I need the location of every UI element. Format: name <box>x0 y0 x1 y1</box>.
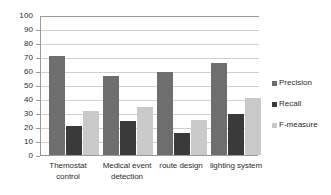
bar-precision <box>157 72 173 155</box>
bar-group <box>103 15 153 155</box>
legend-label: Recall <box>279 99 301 109</box>
legend-item: F-measure <box>272 122 330 143</box>
legend-swatch-fmeasure <box>272 123 277 128</box>
y-axis: 100 90 80 70 60 50 40 30 20 10 0 <box>0 0 40 160</box>
legend: Precision Recall F-measure <box>272 80 330 143</box>
y-tick-label: 0 <box>3 152 33 160</box>
x-category-line: lighting system <box>203 160 269 171</box>
bar-recall <box>228 114 244 155</box>
y-tick-label: 80 <box>3 40 33 48</box>
bar-precision <box>103 76 119 155</box>
bar-fmeasure <box>83 111 99 155</box>
y-tick-label: 20 <box>3 124 33 132</box>
y-tick-mark <box>36 156 40 157</box>
y-tick-label: 50 <box>3 82 33 90</box>
x-category-label: lighting system <box>203 160 269 171</box>
bar-precision <box>211 63 227 155</box>
bar-fmeasure <box>137 107 153 155</box>
bar-recall <box>66 126 82 155</box>
bar-precision <box>49 56 65 155</box>
legend-swatch-recall <box>272 102 277 107</box>
legend-item: Precision <box>272 80 330 101</box>
legend-label: Precision <box>279 78 312 88</box>
bar-group <box>211 15 261 155</box>
y-tick-label: 60 <box>3 68 33 76</box>
x-axis: Themostat control Medical event detectio… <box>40 160 258 194</box>
y-tick-label: 40 <box>3 96 33 104</box>
y-tick-label: 90 <box>3 26 33 34</box>
bar-recall <box>120 121 136 155</box>
bar-recall <box>174 133 190 155</box>
bar-group <box>157 15 207 155</box>
plot-area <box>40 16 258 156</box>
legend-swatch-precision <box>272 81 277 86</box>
chart-screenshot: 100 90 80 70 60 50 40 30 20 10 0 <box>0 0 331 195</box>
legend-item: Recall <box>272 101 330 122</box>
y-tick-label: 100 <box>3 12 33 20</box>
y-tick-label: 70 <box>3 54 33 62</box>
bar-fmeasure <box>245 98 261 155</box>
bar-group <box>49 15 99 155</box>
bar-fmeasure <box>191 120 207 155</box>
x-category-line: detection <box>88 171 166 182</box>
y-tick-label: 30 <box>3 110 33 118</box>
legend-label: F-measure <box>279 120 318 130</box>
y-tick-label: 10 <box>3 138 33 146</box>
